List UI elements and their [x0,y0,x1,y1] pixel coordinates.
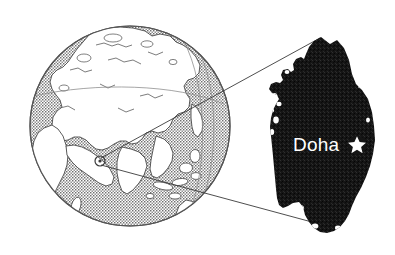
landmass-africa-arabia [32,125,68,222]
qatar-location-marker-dot [98,159,101,162]
doha-star-marker[interactable] [348,136,367,155]
map-canvas: Doha [0,0,395,255]
qatar-inset[interactable]: Doha [269,37,375,233]
globe [30,26,230,228]
doha-city-label: Doha [293,134,339,155]
locator-map-figure: Doha [0,0,395,255]
